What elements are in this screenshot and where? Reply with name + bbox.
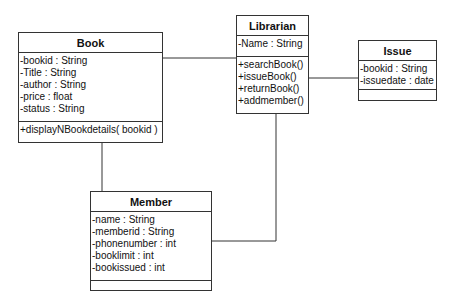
class-book-methods: +displayNBookdetails( bookid ) <box>19 122 162 138</box>
method: +issueBook() <box>238 71 308 83</box>
class-book-title: Book <box>19 33 162 53</box>
attribute: -memberid : String <box>92 226 211 238</box>
attribute: -author : String <box>20 79 162 91</box>
class-librarian-title: Librarian <box>237 16 308 36</box>
attribute: -name : String <box>92 214 211 226</box>
attribute: -bookissued : int <box>92 262 211 274</box>
method: +returnBook() <box>238 83 308 95</box>
attribute: -issuedate : date <box>360 75 436 87</box>
method: +displayNBookdetails( bookid ) <box>20 124 162 136</box>
attribute: -Title : String <box>20 67 162 79</box>
class-book-attributes: -bookid : String -Title : String -author… <box>19 53 162 122</box>
class-issue-title: Issue <box>359 41 436 61</box>
class-librarian-methods: +searchBook() +issueBook() +returnBook()… <box>237 57 308 109</box>
attribute: -price : float <box>20 91 162 103</box>
attribute: -bookid : String <box>360 63 436 75</box>
attribute: -bookid : String <box>20 55 162 67</box>
method: +searchBook() <box>238 59 308 71</box>
class-member-title: Member <box>91 192 211 212</box>
attribute: -booklimit : int <box>92 250 211 262</box>
class-member[interactable]: Member -name : String -memberid : String… <box>90 191 212 291</box>
attribute: -Name : String <box>238 38 308 50</box>
class-issue[interactable]: Issue -bookid : String -issuedate : date <box>358 40 437 101</box>
class-book[interactable]: Book -bookid : String -Title : String -a… <box>18 32 163 143</box>
class-librarian-attributes: -Name : String <box>237 36 308 57</box>
class-member-methods <box>91 281 211 285</box>
attribute: -status : String <box>20 103 162 115</box>
class-issue-methods <box>359 90 436 94</box>
class-librarian[interactable]: Librarian -Name : String +searchBook() +… <box>236 15 309 114</box>
attribute: -phonenumber : int <box>92 238 211 250</box>
class-issue-attributes: -bookid : String -issuedate : date <box>359 61 436 90</box>
class-member-attributes: -name : String -memberid : String -phone… <box>91 212 211 281</box>
association-librarian-member <box>211 113 276 241</box>
method: +addmember() <box>238 95 308 107</box>
